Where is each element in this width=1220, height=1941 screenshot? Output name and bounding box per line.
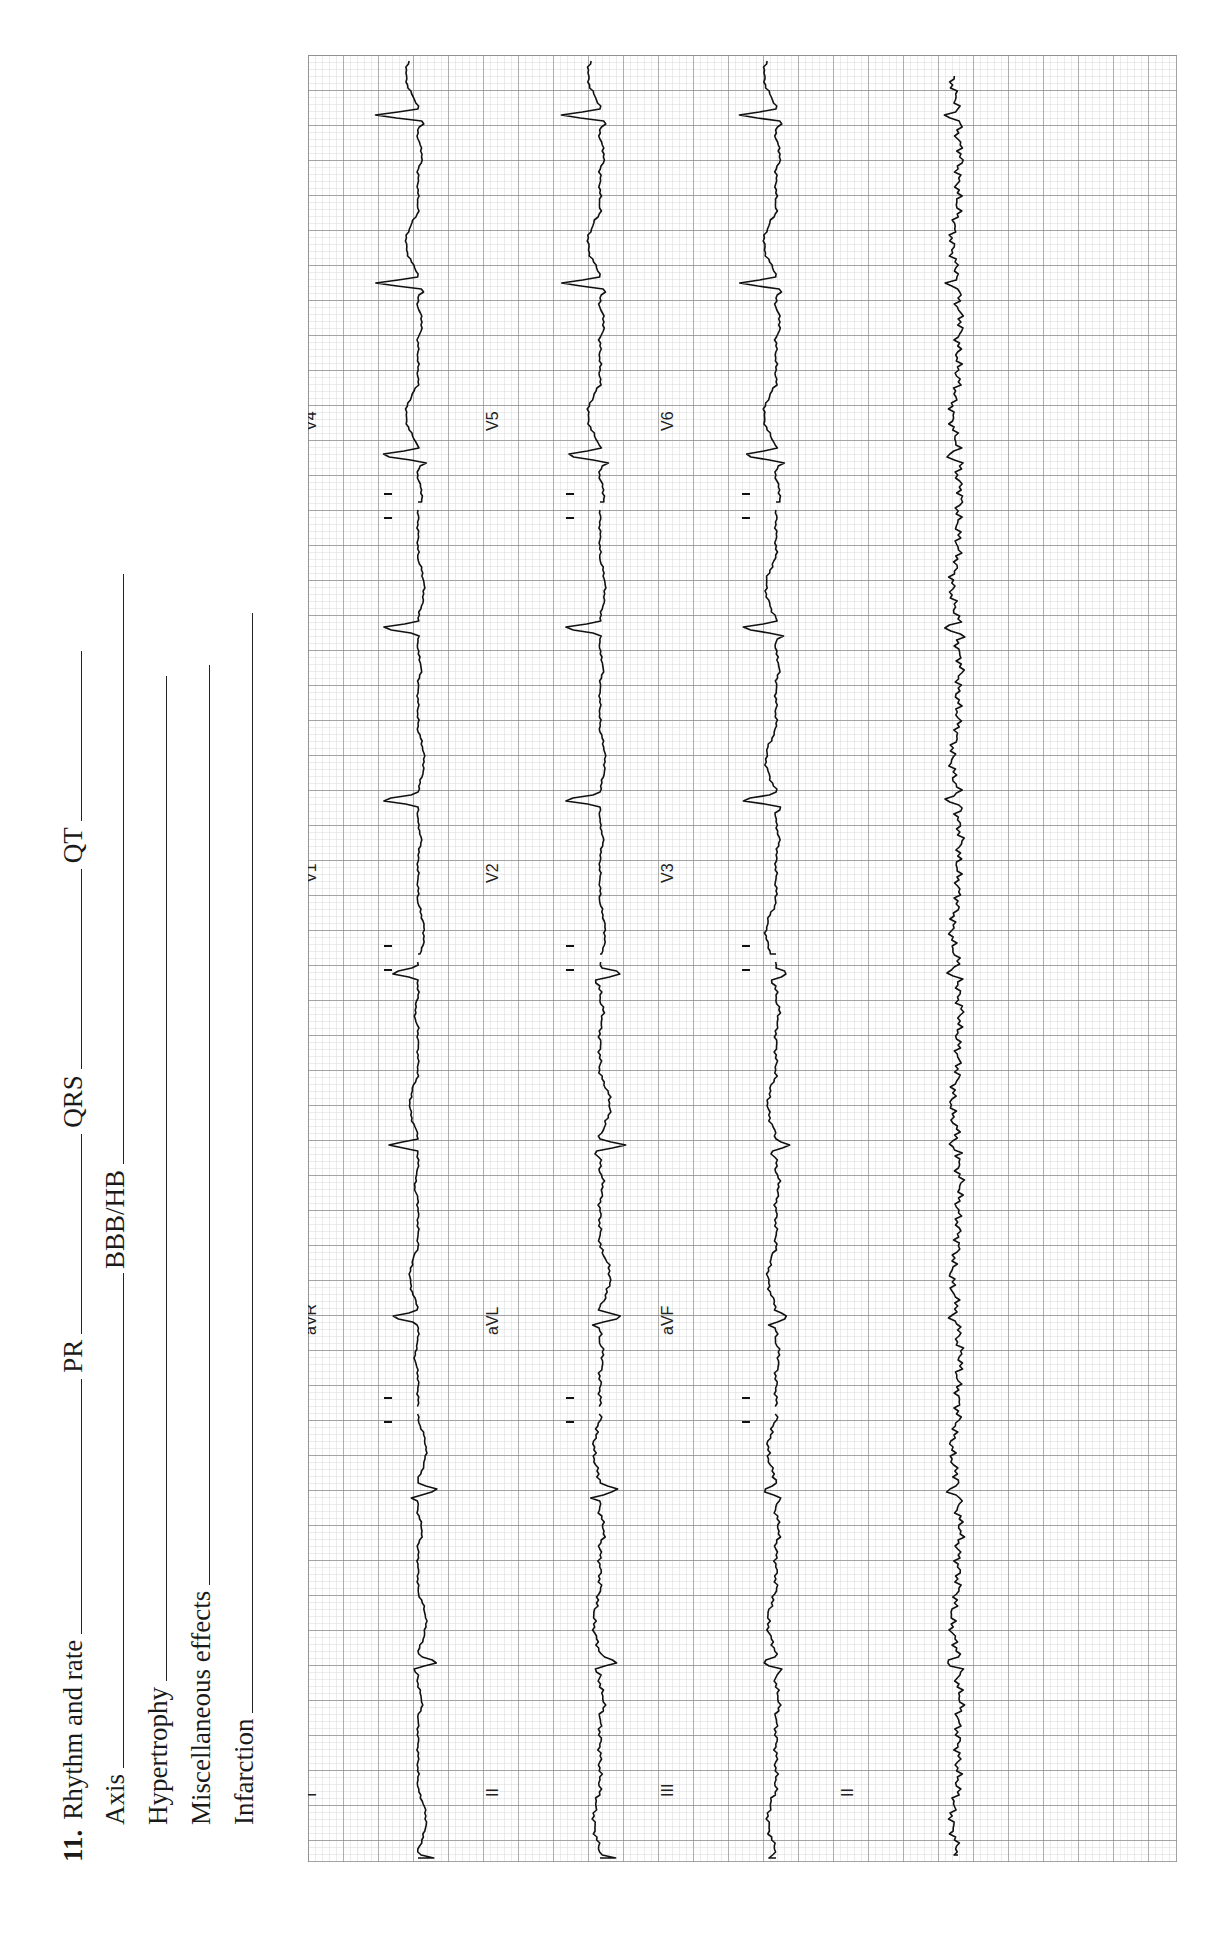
lead-label-V5: V5: [484, 411, 501, 431]
lead-label-I: I: [308, 1793, 319, 1797]
lead-label-V3: V3: [659, 863, 676, 883]
lead-label-II: II: [484, 1788, 501, 1797]
lead-label-V6: V6: [659, 411, 676, 431]
question-row-3: Hypertrophy: [143, 676, 173, 1825]
question-row-4: Miscellaneous effects: [186, 665, 216, 1825]
lead-label-V1: V1: [308, 863, 319, 883]
ecg-worksheet: 11. Rhythm and rate PR QRS QT Axis BBB/H…: [0, 0, 1220, 1941]
qrs-field[interactable]: [59, 869, 82, 1069]
axis-field[interactable]: [101, 1273, 124, 1768]
misc-effects-label: Miscellaneous effects: [186, 1591, 216, 1825]
infarction-label: Infarction: [229, 1719, 259, 1825]
qrs-label: QRS: [58, 1075, 88, 1128]
lead-label-V2: V2: [484, 863, 501, 883]
lead-label-V4: V4: [308, 411, 319, 431]
lead-label-aVF: aVF: [659, 1305, 676, 1335]
lead-label-rhythm-II: II: [839, 1788, 856, 1797]
hypertrophy-field[interactable]: [144, 676, 167, 1681]
question-row-1: 11. Rhythm and rate PR QRS QT: [58, 651, 88, 1862]
pr-field[interactable]: [59, 1134, 82, 1334]
lead-label-aVL: aVL: [484, 1306, 501, 1335]
hypertrophy-label: Hypertrophy: [143, 1687, 173, 1825]
question-number: 11.: [58, 1830, 88, 1862]
ecg-grid: IaVRV1V4IIaVLV2V5IIIaVFV3V6II: [308, 55, 1177, 1862]
misc-effects-field[interactable]: [187, 665, 210, 1585]
question-row-2: Axis BBB/HB: [100, 574, 130, 1825]
question-row-5: Infarction: [229, 613, 259, 1825]
infarction-field[interactable]: [230, 613, 253, 1713]
qt-field[interactable]: [59, 651, 82, 821]
rhythm-rate-field[interactable]: [59, 1379, 82, 1634]
axis-label: Axis: [100, 1774, 130, 1825]
bbb-hb-label: BBB/HB: [100, 1170, 130, 1269]
pr-label: PR: [58, 1340, 88, 1373]
ecg-tracing: IaVRV1V4IIaVLV2V5IIIaVFV3V6II: [308, 55, 1177, 1862]
lead-label-aVR: aVR: [308, 1304, 319, 1335]
bbb-hb-field[interactable]: [101, 574, 124, 1164]
rhythm-rate-label: Rhythm and rate: [58, 1640, 88, 1820]
qt-label: QT: [58, 827, 88, 863]
lead-label-III: III: [659, 1784, 676, 1797]
